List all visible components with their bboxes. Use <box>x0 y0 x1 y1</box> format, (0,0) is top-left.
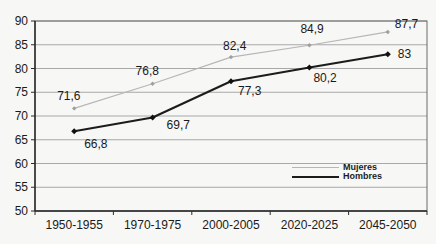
data-point-label: 84,9 <box>300 22 324 36</box>
y-axis-label: 60 <box>15 157 29 171</box>
y-axis-label: 80 <box>15 62 29 76</box>
y-axis-label: 65 <box>15 133 29 147</box>
data-point-mujeres <box>72 106 76 110</box>
data-point-mujeres <box>150 82 154 86</box>
data-point-mujeres <box>386 30 390 34</box>
x-axis-label: 1970-1975 <box>124 218 182 232</box>
x-axis-label: 2000-2005 <box>202 218 260 232</box>
data-point-hombres <box>385 51 391 57</box>
chart-canvas: 5055606570758085901950-19551970-19752000… <box>0 0 436 244</box>
x-axis-label: 2045-2050 <box>359 218 417 232</box>
data-point-label: 69,7 <box>167 118 191 132</box>
x-axis-label: 2020-2025 <box>281 218 339 232</box>
y-axis-label: 75 <box>15 85 29 99</box>
data-point-label: 82,4 <box>223 39 247 53</box>
data-point-mujeres <box>229 55 233 59</box>
y-axis-label: 70 <box>15 109 29 123</box>
data-point-label: 87,7 <box>395 17 419 31</box>
data-point-hombres <box>306 65 312 71</box>
legend-item-hombres: Hombres <box>292 172 382 181</box>
y-axis-label: 55 <box>15 180 29 194</box>
legend-label-hombres: Hombres <box>343 172 382 181</box>
data-point-label: 66,8 <box>84 137 108 151</box>
data-point-label: 77,3 <box>238 84 262 98</box>
data-point-hombres <box>71 128 77 134</box>
y-axis-label: 90 <box>15 14 29 28</box>
legend-line-mujeres-icon <box>292 167 339 168</box>
legend-line-hombres-icon <box>292 176 339 178</box>
data-point-label: 80,2 <box>313 71 337 85</box>
y-axis-label: 85 <box>15 38 29 52</box>
data-point-label: 71,6 <box>57 89 81 103</box>
data-point-label: 83 <box>398 47 412 61</box>
data-point-mujeres <box>307 43 311 47</box>
life-expectancy-line-chart: 5055606570758085901950-19551970-19752000… <box>0 0 436 244</box>
chart-legend: Mujeres Hombres <box>292 163 382 181</box>
x-axis-label: 1950-1955 <box>46 218 104 232</box>
data-point-label: 76,8 <box>136 64 160 78</box>
y-axis-label: 50 <box>15 204 29 218</box>
